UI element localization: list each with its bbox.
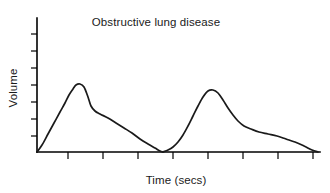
y-axis-label: Volume [7,69,19,108]
x-axis-ticks [68,152,313,159]
x-axis-label: Time (secs) [146,174,207,186]
flow-volume-chart: Obstructive lung disease [0,0,330,193]
chart-title: Obstructive lung disease [92,16,220,28]
trace-breath-1 [37,84,163,152]
trace-group [37,84,318,152]
y-axis-ticks [31,34,37,136]
trace-breath-2 [163,90,318,152]
chart-figure: Obstructive lung disease [0,0,330,193]
